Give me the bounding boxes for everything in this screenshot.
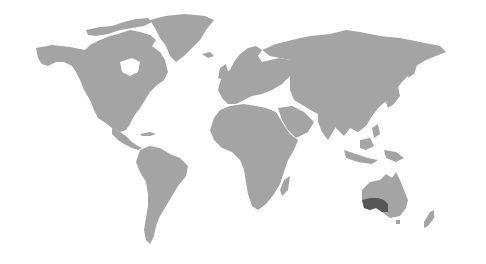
region-north-america[interactable] [36,30,168,132]
world-map-svg [0,0,486,264]
region-south-america[interactable] [136,146,188,244]
region-tasmania[interactable] [396,220,400,224]
region-new-guinea[interactable] [384,150,404,162]
region-caribbean[interactable] [140,132,156,136]
region-indonesia[interactable] [344,150,378,164]
region-central-america[interactable] [112,128,142,150]
region-philippines[interactable] [372,124,380,138]
world-map [0,0,486,264]
region-new-zealand[interactable] [424,210,434,228]
region-highlighted-south-australia[interactable] [362,198,388,212]
region-iceland[interactable] [202,52,214,58]
region-borneo[interactable] [360,138,374,150]
